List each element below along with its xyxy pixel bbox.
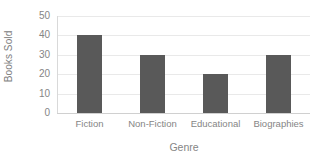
x-axis-tick-label: Educational [191,118,241,130]
y-axis-tick-label: 10 [22,89,50,99]
y-axis-tick-label: 20 [22,69,50,79]
x-axis-tick-label: Fiction [76,118,104,130]
plot-area [58,16,310,113]
x-axis-tick-labels: FictionNon-FictionEducationalBiographies [58,118,310,132]
bar [266,55,291,113]
bar [140,55,165,113]
y-axis-tick-label: 0 [22,108,50,118]
gridline [58,16,310,17]
bar-chart: Books Sold 50403020100 FictionNon-Fictio… [0,0,324,166]
y-axis-title-text: Books Sold [4,31,15,83]
x-axis-title: Genre [58,141,310,154]
x-axis-tick-label: Biographies [253,118,303,130]
bar [77,35,102,113]
y-axis-tick-label: 40 [22,30,50,40]
y-axis-title: Books Sold [0,0,18,113]
y-axis-tick-label: 30 [22,50,50,60]
y-axis-tick-labels: 50403020100 [22,0,50,120]
y-axis-tick-label: 50 [22,11,50,21]
bar [203,74,228,113]
x-axis-tick-label: Non-Fiction [128,118,177,130]
x-axis-line [57,113,310,114]
